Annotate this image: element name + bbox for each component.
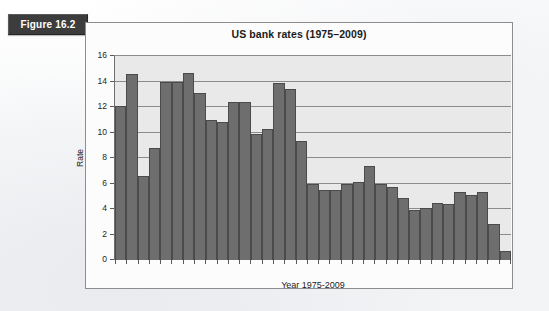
bar [206,120,217,260]
y-axis-tick [110,259,114,260]
bar [285,89,296,260]
bar [307,184,318,261]
x-axis-tick [431,260,442,264]
bar [262,129,273,260]
x-axis-tick [284,260,295,264]
x-axis-tick [138,260,149,264]
x-axis-tick [205,260,216,264]
bar [443,204,454,260]
x-axis-tick [160,260,171,264]
y-axis-tick [110,208,114,209]
x-axis-tick [453,260,464,264]
bar [138,176,149,260]
bar [217,122,228,260]
x-axis-tick [307,260,318,264]
x-axis-title: Year 1975-2009 [115,280,511,290]
x-axis-tick [183,260,194,264]
bar [239,102,250,260]
x-axis-tick [273,260,284,264]
x-axis-tick [250,260,261,264]
y-axis-title: Rate [75,149,85,167]
x-axis-tick [499,260,511,264]
y-axis-tick-label: 0 [102,254,107,264]
bar [420,208,431,260]
bar [149,148,160,260]
bar [228,102,239,260]
bar [183,73,194,260]
bar [251,134,262,260]
bar [296,141,307,260]
bar [432,203,443,260]
bar [477,192,488,260]
bar [500,251,511,260]
bar [330,190,341,260]
x-axis-tick [352,260,363,264]
y-axis-tick [110,106,114,107]
x-axis-tick [341,260,352,264]
x-axis-tick [296,260,307,264]
x-axis-tick [420,260,431,264]
bar [398,198,409,260]
bar [115,106,126,260]
y-axis-tick-label: 10 [98,127,107,137]
x-axis-tick [397,260,408,264]
y-axis-tick [110,55,114,56]
bar [488,224,499,260]
x-axis-tick [126,260,137,264]
bar [387,187,398,260]
x-axis-tick [194,260,205,264]
y-axis-tick [110,183,114,184]
y-axis-tick-label: 14 [98,76,107,86]
x-axis-tick [228,260,239,264]
y-axis-tick [110,132,114,133]
x-axis-tick [329,260,340,264]
x-axis-tick [386,260,397,264]
bar [319,190,330,260]
y-axis-tick-label: 16 [98,50,107,60]
x-axis-tick [363,260,374,264]
bar [409,210,420,260]
y-axis-tick-label: 12 [98,101,107,111]
bar [454,192,465,260]
x-axis-tick [262,260,273,264]
y-axis-tick-label: 2 [102,229,107,239]
bar [126,74,137,260]
y-axis-tick [110,157,114,158]
x-axis-tick [217,260,228,264]
y-axis-tick-label: 4 [102,203,107,213]
bar [172,82,183,261]
y-axis-tick-label: 6 [102,178,107,188]
y-axis-tick [110,234,114,235]
x-axis-tick [442,260,453,264]
x-axis-tick [408,260,419,264]
bar [273,83,284,260]
x-axis-tick [476,260,487,264]
x-axis-tick [374,260,385,264]
chart-container: US bank rates (1975–2009) Rate 161412108… [85,22,513,289]
x-axis-ticks [115,260,511,264]
chart-title: US bank rates (1975–2009) [86,28,512,40]
x-axis-tick [465,260,476,264]
bar [353,182,364,260]
x-axis-tick [115,260,126,264]
bar [466,195,477,260]
y-axis-tick [110,81,114,82]
bar [194,93,205,260]
y-axis-tick-label: 8 [102,152,107,162]
bar-series [115,56,511,260]
x-axis-tick [487,260,498,264]
plot-area: Rate 1614121086420 Year 1975-2009 [114,55,511,260]
bar [341,184,352,261]
bar [364,166,375,260]
x-axis-tick [149,260,160,264]
x-axis-tick [239,260,250,264]
bar [160,82,171,261]
x-axis-tick [318,260,329,264]
figure-number-badge: Figure 16.2 [8,14,88,35]
x-axis-tick [171,260,182,264]
bar [375,184,386,261]
